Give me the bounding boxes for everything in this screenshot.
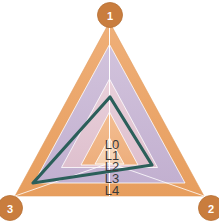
vertex-badge-top[interactable]: 1 [98,3,123,28]
badge-label-bottom-left: 3 [7,203,13,215]
radar-chart-canvas: L0 L1 L2 L3 L4 1 3 2 [0,0,219,223]
tick-label-l4: L4 [105,183,119,198]
radar-chart: L0 L1 L2 L3 L4 1 3 2 [0,0,219,223]
badge-label-top: 1 [107,10,113,22]
radial-tick-labels: L0 L1 L2 L3 L4 [105,137,119,198]
vertex-badge-bottom-right[interactable]: 2 [199,196,220,221]
vertex-badge-bottom-left[interactable]: 3 [0,196,23,221]
badge-label-bottom-right: 2 [208,203,214,215]
